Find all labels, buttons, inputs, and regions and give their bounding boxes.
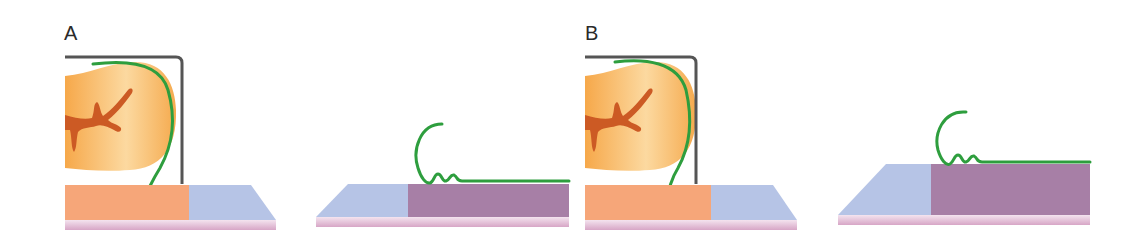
purple-tissue-block	[931, 164, 1090, 215]
pink-base-layer	[838, 215, 1090, 225]
diagram-canvas	[0, 0, 1148, 240]
blue-tissue-block	[838, 164, 931, 215]
pink-base-layer	[585, 220, 797, 230]
purple-tissue-block	[408, 184, 569, 217]
panel-a-right	[316, 124, 569, 227]
pink-base-layer	[316, 217, 569, 227]
pink-base-layer	[65, 220, 276, 230]
orange-tissue-block	[65, 185, 189, 220]
blue-tissue-block	[711, 185, 797, 220]
blue-tissue-block	[189, 185, 276, 220]
membrane-flap	[937, 112, 1090, 164]
blue-tissue-block	[316, 184, 408, 217]
membrane-flap	[416, 124, 569, 183]
panel-a-left	[65, 57, 276, 230]
tooth-crown	[65, 62, 176, 171]
panel-b-left	[585, 57, 797, 230]
panel-b-right	[838, 112, 1090, 225]
orange-tissue-block	[585, 185, 711, 220]
